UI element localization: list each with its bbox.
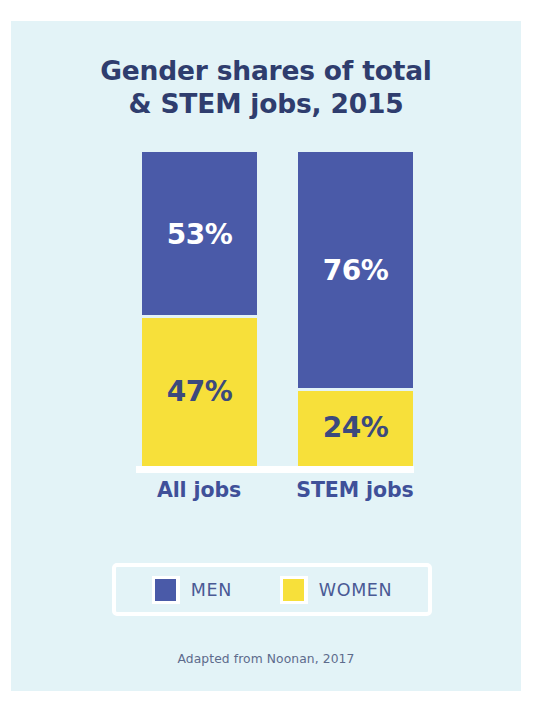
chart-panel: Gender shares of total & STEM jobs, 2015… (11, 21, 521, 691)
source-attribution: Adapted from Noonan, 2017 (11, 652, 521, 666)
legend-item-men: MEN (152, 576, 232, 604)
bar-segment-women-all-jobs: 47% (142, 318, 257, 466)
bar-segment-men-all-jobs: 53% (142, 152, 257, 318)
bar-segment-women-stem-jobs: 24% (298, 391, 413, 466)
category-label-all-jobs: All jobs (124, 478, 274, 502)
bar-segment-value-label: 76% (323, 257, 389, 285)
axis-baseline (136, 466, 414, 473)
bar-segment-value-label: 47% (167, 378, 233, 406)
legend-swatch-men-icon (155, 579, 176, 601)
bar-column-all-jobs: 53% 47% (142, 152, 257, 466)
bar-segment-value-label: 24% (323, 414, 389, 442)
legend-swatch-tile-men (152, 576, 180, 604)
bar-segment-value-label: 53% (167, 221, 233, 249)
legend-swatch-women-icon (283, 579, 304, 601)
legend-swatch-tile-women (280, 576, 308, 604)
chart-legend: MEN WOMEN (112, 563, 432, 616)
legend-label-women: WOMEN (319, 580, 392, 600)
bar-segment-men-stem-jobs: 76% (298, 152, 413, 391)
infographic-poster: Gender shares of total & STEM jobs, 2015… (0, 0, 541, 707)
bar-column-stem-jobs: 76% 24% (298, 152, 413, 466)
legend-label-men: MEN (191, 580, 232, 600)
category-label-stem-jobs: STEM jobs (280, 478, 430, 502)
legend-item-women: WOMEN (280, 576, 392, 604)
